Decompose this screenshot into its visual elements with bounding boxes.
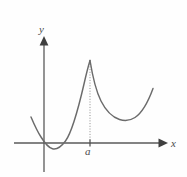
graph-canvas xyxy=(0,0,187,177)
y-axis-arrowhead xyxy=(40,36,49,46)
function-curve-left-segment xyxy=(31,61,90,150)
function-curve-right-segment xyxy=(90,61,153,121)
y-axis-label: y xyxy=(39,24,44,35)
x-axis-label: x xyxy=(171,138,176,149)
function-graph-figure: y x a xyxy=(0,0,187,177)
x-tick-label-a: a xyxy=(85,146,91,157)
x-axis-arrowhead xyxy=(159,139,169,148)
